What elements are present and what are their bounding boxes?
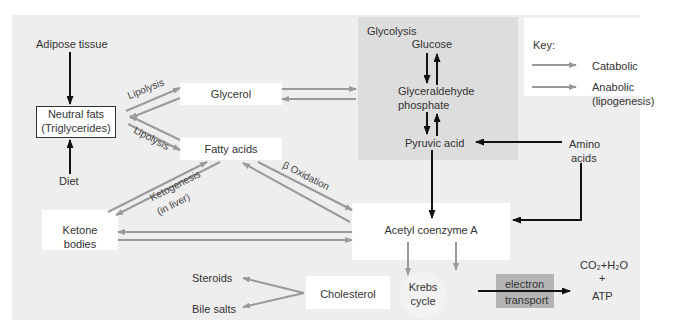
neutral-fats-label: Neutral fats (36, 107, 116, 121)
key-anabolic-label: Anabolic (592, 80, 634, 94)
diet-label: Diet (59, 174, 79, 188)
amino-acids-label-2: acids (571, 151, 597, 165)
amino-acids-label-1: Amino (569, 137, 600, 151)
adipose-tissue-label: Adipose tissue (36, 37, 108, 51)
bile-salts-label: Bile salts (192, 302, 236, 316)
fatty-acids-label: Fatty acids (180, 142, 282, 156)
krebs-label-2: cycle (400, 294, 446, 308)
g3p-label-1: Glyceraldehyde (398, 84, 474, 98)
glycolysis-label: Glycolysis (367, 24, 417, 38)
key-title: Key: (533, 38, 555, 52)
acetyl-coa-label: Acetyl coenzyme A (352, 223, 510, 237)
g3p-label-2: phosphate (398, 98, 449, 112)
key-lipogenesis-label: (lipogenesis) (592, 94, 654, 108)
key-catabolic-label: Catabolic (592, 59, 638, 73)
electron-transport-label-1: electron (505, 277, 544, 291)
glucose-label: Glucose (392, 37, 472, 51)
steroids-label: Steroids (192, 271, 232, 285)
cholesterol-label: Cholesterol (306, 287, 390, 301)
triglycerides-label: (Triglycerides) (36, 121, 116, 135)
electron-transport-label-2: transport (505, 293, 548, 307)
plus-label: + (599, 271, 605, 285)
ketone-bodies-label-1: Ketone (42, 223, 118, 237)
atp-label: ATP (592, 289, 613, 303)
pyruvic-acid-label: Pyruvic acid (405, 136, 464, 150)
ketone-bodies-label-2: bodies (42, 237, 118, 251)
co2-h2o-label: CO₂+H₂O (580, 258, 628, 272)
krebs-label-1: Krebs (400, 280, 446, 294)
glycerol-label: Glycerol (180, 87, 282, 101)
